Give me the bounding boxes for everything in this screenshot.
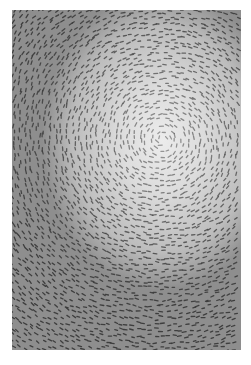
- dash-marks-pattern: [12, 10, 241, 350]
- swirl-artwork: [12, 10, 241, 350]
